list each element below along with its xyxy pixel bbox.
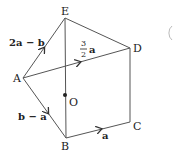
vector-label-AD-vec: a [89, 44, 96, 55]
point-label-D: D [133, 42, 142, 55]
vector-AB [23, 78, 66, 138]
point-O-dot [63, 93, 67, 97]
point-label-C: C [133, 120, 141, 133]
partial-circle-decoration [169, 26, 172, 40]
segment-EB [65, 18, 66, 138]
vector-diagram: E D C B A O 2a − b 3 2 a b − a a [0, 0, 173, 156]
vector-label-AE: 2a − b [9, 37, 45, 48]
point-label-O: O [69, 96, 78, 109]
segment-ED [65, 18, 130, 48]
point-label-E: E [61, 5, 69, 18]
vector-label-AD-numerator: 3 [81, 39, 86, 48]
vector-label-AD-denominator: 2 [81, 50, 86, 59]
vector-label-AB: b − a [18, 111, 47, 122]
vector-AD [23, 48, 130, 78]
point-label-A: A [12, 72, 22, 85]
point-label-B: B [61, 140, 69, 153]
vector-BC [66, 122, 130, 138]
vector-label-BC: a [102, 130, 109, 141]
